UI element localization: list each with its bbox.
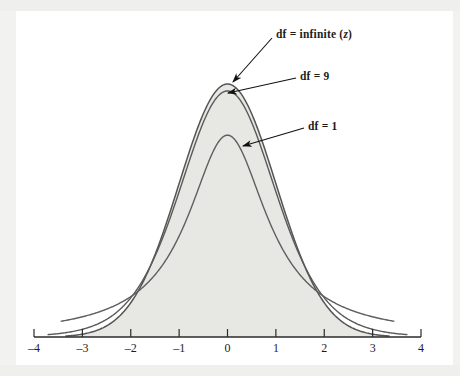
axis-tick-label: –2 (125, 341, 137, 356)
annotation-text-suffix: ) (348, 28, 352, 40)
shaded-area-z (65, 84, 389, 337)
axis-tick-label: 2 (321, 341, 327, 356)
annotation-label-df-9: df = 9 (300, 70, 329, 82)
annotation-label-df-1: df = 1 (308, 120, 337, 132)
axis-tick-label: 0 (225, 341, 231, 356)
t-distribution-chart (0, 0, 460, 376)
axis-tick-label: –3 (76, 341, 88, 356)
axis-tick-label: 1 (273, 341, 279, 356)
axis-tick-label: –4 (28, 341, 40, 356)
axis-tick-label: 3 (370, 341, 376, 356)
axis-tick-label: 4 (418, 341, 424, 356)
annotation-label-df-infinite: df = infinite (z) (276, 28, 352, 40)
axis-tick-label: –1 (173, 341, 185, 356)
annotation-arrow-df-infinite (233, 38, 272, 82)
annotation-arrow-df-9 (228, 78, 296, 93)
annotation-text-prefix: df = infinite ( (276, 28, 343, 40)
figure-container: df = infinite (z) df = 9 df = 1 –4–3–2–1… (0, 0, 460, 376)
